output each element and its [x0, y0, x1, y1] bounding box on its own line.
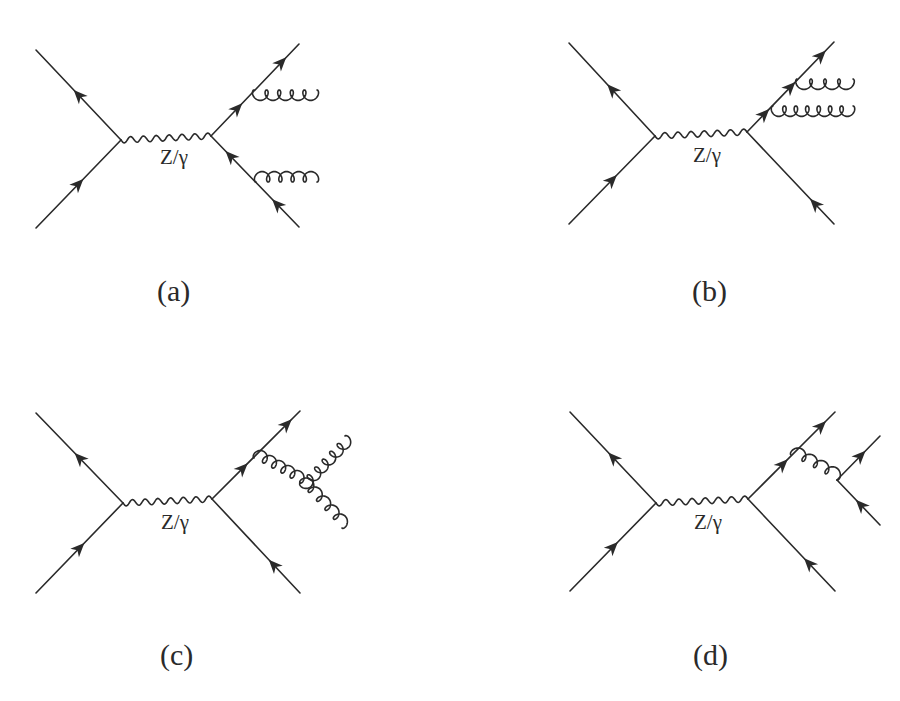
propagator-label-c: Z/γ: [161, 512, 189, 533]
feynman-diagram-b: [569, 42, 855, 224]
feynman-diagram-c: [36, 411, 351, 593]
panel-label-b: (b): [692, 276, 727, 306]
feynman-diagrams-figure: [0, 0, 900, 701]
feynman-diagram-a: [36, 44, 319, 228]
feynman-diagram-d: [570, 412, 880, 591]
panel-label-c: (c): [160, 640, 193, 670]
panel-label-a: (a): [157, 276, 190, 306]
propagator-label-d: Z/γ: [694, 512, 722, 533]
propagator-label-a: Z/γ: [160, 147, 188, 168]
panel-label-d: (d): [693, 640, 728, 670]
propagator-label-b: Z/γ: [693, 145, 721, 166]
